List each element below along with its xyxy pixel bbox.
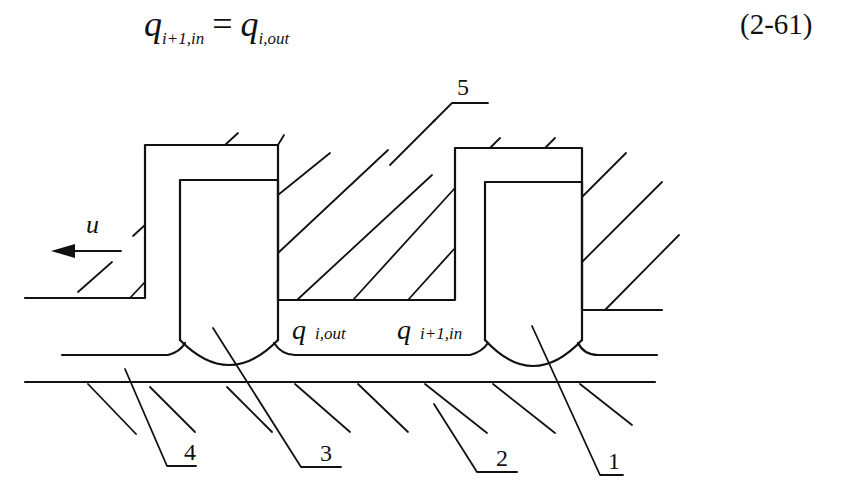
callout-4: 4 (184, 440, 196, 464)
bearing-diagram: u qi,out qi+1,in 5 4 3 2 1 (0, 0, 859, 494)
velocity-label: u (86, 213, 99, 237)
callout-leaders (125, 103, 623, 475)
housing-hatching (78, 120, 679, 310)
callout-5: 5 (457, 75, 469, 99)
callout-3: 3 (320, 441, 332, 465)
diagram-drawing (0, 0, 859, 494)
flow-inlet-subscript: i+1,in (420, 324, 462, 343)
flow-label-outlet: qi,out (292, 314, 346, 346)
housing-outline (25, 145, 662, 310)
callout-2: 2 (496, 446, 508, 470)
leader-5 (433, 103, 488, 122)
arrow-left-icon (51, 244, 75, 258)
base-hatching (88, 384, 632, 434)
flow-label-inlet: qi+1,in (397, 314, 462, 346)
pad-1-outline (485, 182, 582, 366)
callout-1: 1 (608, 449, 620, 473)
flow-outlet-symbol: q (292, 314, 306, 345)
pad-3-outline (180, 180, 278, 365)
flow-inlet-symbol: q (397, 314, 411, 345)
velocity-arrow (51, 244, 121, 258)
flow-outlet-subscript: i,out (315, 324, 346, 343)
